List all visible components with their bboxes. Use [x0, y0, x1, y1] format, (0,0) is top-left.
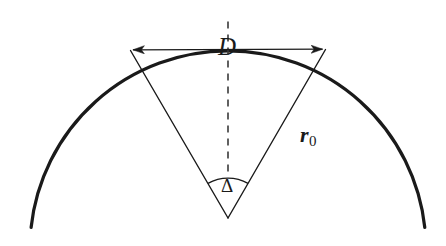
chord-label-D: D	[218, 34, 236, 59]
radius-label-symbol: r	[300, 122, 309, 147]
radius-label-r0: r0	[300, 124, 317, 149]
geometry-figure: D r0 Δ	[0, 0, 446, 246]
angle-label-delta: Δ	[221, 176, 233, 195]
radius-ray-left	[131, 51, 229, 219]
radius-label-subscript: 0	[309, 133, 317, 149]
